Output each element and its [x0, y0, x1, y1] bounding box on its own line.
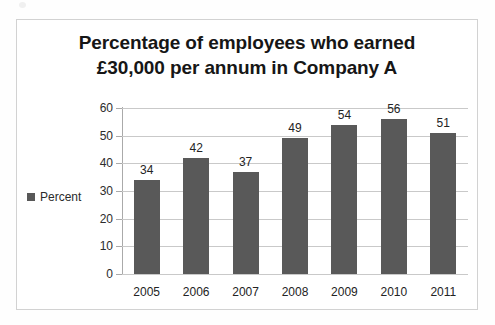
y-axis-tick-50: [116, 136, 122, 137]
y-axis-label-20: 20: [100, 212, 113, 226]
category-axis-label: 2007: [232, 285, 259, 299]
y-axis-label-10: 10: [100, 239, 113, 253]
y-axis-tick-30: [116, 191, 122, 192]
bar: 562010: [381, 119, 407, 274]
y-axis-label-60: 60: [100, 101, 113, 115]
bar-value-label: 49: [288, 121, 301, 135]
chart-title-line-1: Percentage of employees who earned: [17, 30, 477, 55]
category-axis-label: 2005: [133, 285, 160, 299]
legend-label-percent: Percent: [40, 191, 81, 203]
bar: 422006: [183, 158, 209, 274]
bar: 492008: [282, 138, 308, 274]
y-axis-tick-0: [116, 274, 122, 275]
bar-value-label: 42: [189, 141, 202, 155]
scan-artifact-speck: [19, 2, 26, 8]
category-axis-label: 2009: [331, 285, 358, 299]
gridline-0: [122, 274, 468, 275]
category-axis-label: 2010: [380, 285, 407, 299]
bar-value-label: 56: [387, 102, 400, 116]
chart-title: Percentage of employees who earned £30,0…: [17, 30, 477, 80]
y-axis-label-50: 50: [100, 129, 113, 143]
y-axis-tick-40: [116, 163, 122, 164]
plot-area: 0102030405060342005422006372007492008542…: [122, 108, 468, 274]
bar-value-label: 51: [437, 116, 450, 130]
bar: 372007: [233, 172, 259, 274]
chart-title-line-2: £30,000 per annum in Company A: [17, 55, 477, 80]
y-axis-tick-20: [116, 219, 122, 220]
legend-swatch-percent-icon: [27, 193, 35, 201]
bar-value-label: 34: [140, 163, 153, 177]
bar: 512011: [430, 133, 456, 274]
y-axis-tick-10: [116, 246, 122, 247]
y-axis-tick-60: [116, 108, 122, 109]
chart-legend: Percent: [27, 191, 81, 203]
gridline-50: [122, 136, 468, 137]
category-axis-label: 2006: [183, 285, 210, 299]
bar: 342005: [134, 180, 160, 274]
bar-value-label: 54: [338, 108, 351, 122]
y-axis-label-30: 30: [100, 184, 113, 198]
category-axis-label: 2011: [430, 285, 456, 299]
category-axis-label: 2008: [282, 285, 309, 299]
bar: 542009: [331, 125, 357, 274]
y-axis-label-0: 0: [106, 267, 113, 281]
bar-value-label: 37: [239, 155, 252, 169]
y-axis-label-40: 40: [100, 156, 113, 170]
scanned-page: Percentage of employees who earned £30,0…: [0, 0, 495, 325]
gridline-60: [122, 108, 468, 109]
